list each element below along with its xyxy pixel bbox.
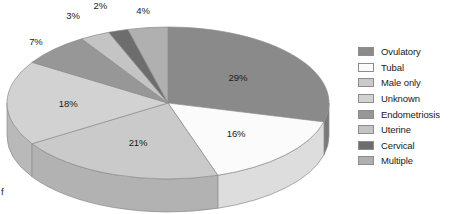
legend-item-label: Male only bbox=[381, 77, 421, 88]
slice-label-multiple: 4% bbox=[136, 4, 150, 15]
caption-fragment: f bbox=[1, 186, 4, 197]
legend-item-label: Ovulatory bbox=[381, 46, 421, 57]
legend-item-label: Multiple bbox=[381, 155, 413, 166]
legend-item-unknown[interactable]: Unknown bbox=[358, 91, 453, 107]
legend-item-cervical[interactable]: Cervical bbox=[358, 138, 453, 154]
legend-item-ovulatory[interactable]: Ovulatory bbox=[358, 44, 453, 60]
chart-legend: OvulatoryTubalMale onlyUnknownEndometrio… bbox=[358, 44, 453, 169]
legend-item-label: Tubal bbox=[381, 62, 404, 73]
legend-item-label: Cervical bbox=[381, 140, 415, 151]
legend-swatch-icon bbox=[358, 125, 374, 134]
legend-swatch-icon bbox=[358, 78, 374, 87]
slice-label-cervical: 2% bbox=[94, 0, 108, 10]
slice-label-male-only: 21% bbox=[129, 137, 148, 148]
legend-swatch-icon bbox=[358, 63, 374, 72]
legend-item-male-only[interactable]: Male only bbox=[358, 75, 453, 91]
legend-swatch-icon bbox=[358, 94, 374, 103]
legend-item-uterine[interactable]: Uterine bbox=[358, 122, 453, 138]
legend-swatch-icon bbox=[358, 47, 374, 56]
slice-label-uterine: 3% bbox=[66, 9, 80, 20]
legend-item-tubal[interactable]: Tubal bbox=[358, 60, 453, 76]
pie-chart-screenshot: 29%16%21%18%7%3%2%4% OvulatoryTubalMale … bbox=[0, 0, 453, 214]
pie-chart-figure: 29%16%21%18%7%3%2%4% bbox=[0, 0, 340, 214]
slice-label-unknown: 18% bbox=[59, 98, 78, 109]
legend-item-label: Endometriosis bbox=[381, 109, 440, 120]
slice-label-ovulatory: 29% bbox=[229, 72, 248, 83]
slice-label-endometriosis: 7% bbox=[29, 35, 43, 46]
legend-item-endometriosis[interactable]: Endometriosis bbox=[358, 106, 453, 122]
legend-swatch-icon bbox=[358, 156, 374, 165]
pie-chart-svg bbox=[0, 0, 340, 214]
legend-swatch-icon bbox=[358, 110, 374, 119]
legend-item-label: Uterine bbox=[381, 124, 411, 135]
legend-item-multiple[interactable]: Multiple bbox=[358, 153, 453, 169]
slice-label-tubal: 16% bbox=[227, 128, 246, 139]
legend-item-label: Unknown bbox=[381, 93, 420, 104]
legend-swatch-icon bbox=[358, 141, 374, 150]
